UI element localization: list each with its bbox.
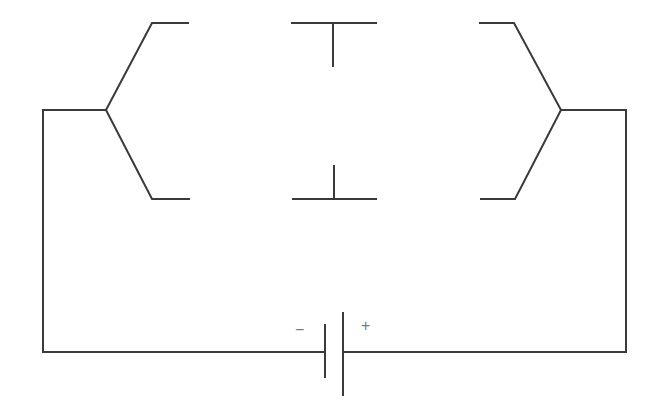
positive-terminal-label: +: [361, 318, 370, 334]
left-wire: [43, 110, 325, 352]
battery-icon: [325, 313, 343, 395]
negative-terminal-label: −: [295, 322, 304, 338]
circuit-diagram: [0, 0, 657, 412]
center-bottom-contact: [293, 166, 376, 199]
right-fork-contact: [480, 23, 561, 199]
left-fork-contact: [106, 23, 189, 199]
right-wire: [343, 110, 626, 352]
center-top-contact: [292, 23, 376, 66]
